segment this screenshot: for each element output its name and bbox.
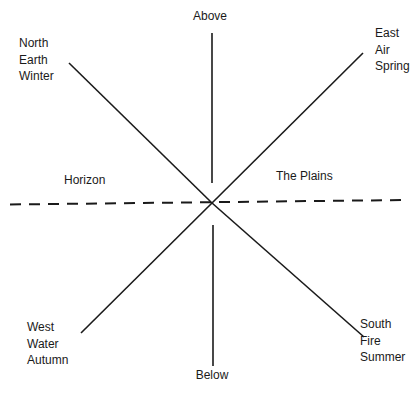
west-line	[81, 203, 212, 333]
northeast-label: East Air Spring	[375, 25, 410, 75]
direction-text: North	[19, 35, 54, 52]
season-text: Winter	[19, 68, 54, 85]
southwest-label: West Water Autumn	[27, 319, 68, 369]
above-label: Above	[193, 8, 227, 25]
southeast-label: South Fire Summer	[360, 316, 405, 366]
season-text: Autumn	[27, 352, 68, 369]
element-text: Fire	[360, 333, 405, 350]
element-text: Water	[27, 336, 68, 353]
northwest-label: North Earth Winter	[19, 35, 54, 85]
element-text: Air	[375, 42, 410, 59]
direction-text: East	[375, 25, 410, 42]
season-text: Summer	[360, 349, 405, 366]
horizon-dashed-line	[10, 200, 404, 205]
horizon-label: Horizon	[64, 172, 105, 189]
season-text: Spring	[375, 58, 410, 75]
south-line	[212, 203, 364, 337]
below-label: Below	[196, 367, 229, 384]
direction-text: South	[360, 316, 405, 333]
plains-label: The Plains	[276, 168, 333, 185]
element-text: Earth	[19, 52, 54, 69]
direction-text: West	[27, 319, 68, 336]
